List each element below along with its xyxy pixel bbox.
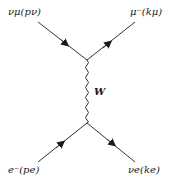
nu-mu-line bbox=[38, 22, 87, 60]
nu-e-line bbox=[87, 123, 135, 162]
label-w-boson: W bbox=[94, 87, 105, 97]
label-muon: μ⁻(kμ) bbox=[130, 7, 162, 17]
label-nu-e: νe(ke) bbox=[128, 165, 160, 175]
muon-line bbox=[87, 22, 135, 60]
label-electron: e⁻(pe) bbox=[8, 165, 39, 175]
electron-line bbox=[38, 123, 87, 162]
w-boson-propagator bbox=[86, 60, 89, 123]
label-nu-mu: νμ(pν) bbox=[8, 7, 41, 17]
feynman-diagram bbox=[0, 0, 175, 183]
